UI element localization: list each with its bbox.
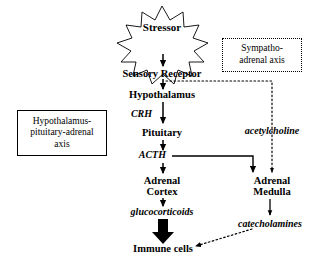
node-adrenal-medulla: Adrenal Medulla (226, 175, 318, 198)
thick-arrow-glucocorticoids-to-immune-cells (152, 219, 174, 244)
sympatho-adrenal-axis-box: Sympatho- adrenal axis (222, 38, 302, 72)
hpa-axis-line1: Hypothalamus- (33, 116, 92, 126)
node-sensory-receptor: Sensory Receptor (103, 68, 221, 79)
sam-axis-line1: Sympatho- (241, 43, 283, 53)
hpa-axis-line2: pituitary-adrenal (30, 127, 93, 137)
adrenal-medulla-line1: Adrenal (254, 175, 291, 186)
label-acth: ACTH (104, 150, 166, 161)
hpa-axis-line3: axis (54, 139, 69, 149)
label-crh: CRH (92, 109, 152, 120)
adrenal-medulla-line2: Medulla (253, 186, 290, 197)
node-pituitary: Pituitary (114, 127, 210, 138)
node-immune-cells: Immune cells (108, 243, 218, 254)
label-catecholamines: catecholamines (212, 219, 324, 230)
label-acetylcholine: acetylcholine (218, 126, 324, 137)
arrow-acth-to-adrenal-medulla (172, 156, 253, 172)
sam-axis-line2: adrenal axis (239, 55, 285, 65)
node-hypothalamus: Hypothalamus (108, 89, 216, 100)
stressor-label: Stressor (124, 22, 200, 34)
node-adrenal-cortex: Adrenal Cortex (112, 175, 212, 198)
label-glucocorticoids: glucocorticoids (96, 207, 228, 218)
adrenal-cortex-line2: Cortex (147, 186, 178, 197)
stress-response-diagram: Stressor Hypothalamus- pituitary-adrenal… (0, 0, 324, 270)
adrenal-cortex-line1: Adrenal (144, 175, 181, 186)
